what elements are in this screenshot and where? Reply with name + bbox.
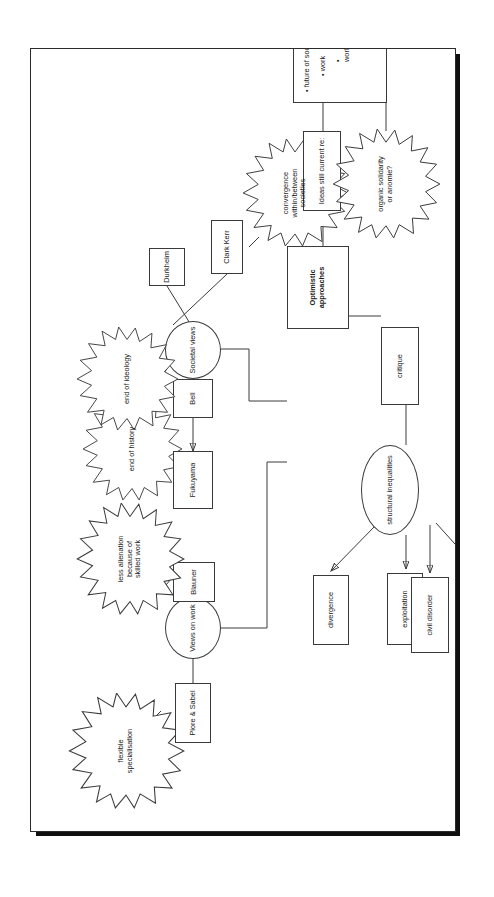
list-item-work: • work [319,48,328,92]
node-piore-sabel[interactable]: Piore & Sabel [175,683,211,743]
list-item-workforce: • workforce [334,48,351,92]
node-durkheim-label: Durkheim [163,251,172,283]
node-optimistic-approaches[interactable]: Optimistic approaches [287,246,349,329]
edge-societal-optimistic-2 [249,349,287,401]
node-civil-disorder-label: civil disorder [426,594,435,635]
starburst-less-alienation: less alienation because of skilled work [75,503,185,615]
node-divergence-label: divergence [327,592,336,628]
node-optimistic-line2: approaches [318,267,327,309]
starburst-end-of-ideology: end of ideology [75,327,179,431]
starburst-flexible-specialisation: flexible specialisation [67,693,185,809]
starburst-endhistory-label: end of history [128,427,137,471]
list-item-future-of-society: • future of society [303,48,312,92]
node-ideas-still-current-label: Ideas still current re: [318,138,327,205]
node-civil-disorder[interactable]: civil disorder [411,577,449,653]
starburst-organic-line2: or anomie? [386,156,395,211]
starburst-organic-solidarity: organic solidarity or anomie? [331,129,441,239]
starburst-alienation-line3: skilled work [134,536,143,583]
concept-map-canvas: flexible specialisation Piore & Sabel Vi… [31,49,455,831]
node-piore-sabel-label: Piore & Sabel [189,690,198,735]
starburst-endideology-label: end of ideology [123,354,132,404]
document-page: flexible specialisation Piore & Sabel Vi… [30,48,456,832]
node-critique[interactable]: critique [381,327,419,405]
node-divergence[interactable]: divergence [313,575,349,645]
starburst-convergence-line3: societies [299,169,308,218]
node-bell-label: Bell [189,392,198,404]
node-structural-inequalities-label: structural inequalities [386,455,395,524]
node-durkheim[interactable]: Durkheim [149,248,185,286]
node-societal-views-label: Societal views [189,327,198,374]
node-bell[interactable]: Bell [173,379,213,418]
node-critique-label: critique [396,354,405,378]
node-clark-kerr[interactable]: Clark Kerr [211,220,243,274]
node-fukuyama-label: Fukuyama [189,463,198,498]
starburst-flexible-label: flexible specialisation [117,729,134,773]
node-exploitation-label: exploitation [401,590,410,627]
starburst-organic-label: organic solidarity or anomie? [377,156,394,211]
node-blauner-label: Blauner [190,569,199,594]
edge-structural-work [436,523,456,575]
edge-views-optimistic [221,462,287,628]
starburst-alienation-label: less alienation because of skilled work [117,536,143,583]
starburst-flexible-line2: specialisation [126,729,135,773]
node-structural-inequalities[interactable]: structural inequalities [361,445,419,535]
starburst-convergence-label: convergence within/between societies [282,169,308,218]
node-optimistic-approaches-label: Optimistic approaches [309,267,326,309]
node-future-of-society-list[interactable]: • future of society • work • workforce [293,48,387,103]
edge-structural-divergence [331,525,376,571]
node-fukuyama[interactable]: Fukuyama [173,451,213,509]
node-clark-kerr-label: Clark Kerr [223,230,232,263]
node-views-on-work-label: Views on work [189,604,198,652]
